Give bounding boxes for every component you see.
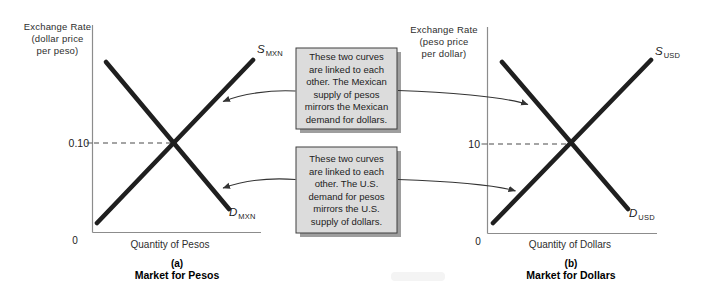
pesos-caption-title: Market for Pesos xyxy=(112,270,242,281)
pesos-graph xyxy=(87,25,262,233)
dollars-x-axis-label: Quantity of Dollars xyxy=(505,239,635,250)
pesos-supply-curve xyxy=(97,60,253,223)
top-note-line2: are linked to each xyxy=(297,64,396,77)
dollars-supply-subscript: USD xyxy=(664,51,680,60)
top-note-line3: other. The Mexican xyxy=(297,76,396,89)
dollars-y-axis-title-line2: (peso price xyxy=(400,36,488,48)
pesos-y-axis-title: Exchange Rate (dollar price per peso) xyxy=(13,21,102,57)
dollars-demand-curve-label: DUSD xyxy=(629,207,655,222)
dollars-y-axis-title: Exchange Rate (peso price per dollar) xyxy=(400,24,488,60)
dollars-equilibrium-tick-label: 10 xyxy=(455,138,480,150)
pesos-supply-subscript: MXN xyxy=(266,49,283,58)
top-note-line5: mirrors the Mexican xyxy=(297,101,396,114)
dollars-caption: (b) Market for Dollars xyxy=(506,258,636,281)
arrow-bottom-to-supply-usd xyxy=(398,180,516,192)
bottom-note-line3: other. The U.S. xyxy=(297,178,396,191)
top-note-line1: These two curves xyxy=(297,51,396,64)
dollars-caption-title: Market for Dollars xyxy=(506,270,636,281)
dollars-demand-letter: D xyxy=(629,207,637,219)
dollars-caption-index: (b) xyxy=(506,258,636,269)
pesos-demand-curve xyxy=(106,62,229,209)
top-note-line6: demand for dollars. xyxy=(297,114,396,127)
pesos-x-axis-label: Quantity of Pesos xyxy=(105,239,235,250)
bottom-note-line5: mirrors the U.S. xyxy=(297,203,396,216)
dollars-y-axis-title-line1: Exchange Rate xyxy=(400,24,488,36)
bottom-note-line4: demand for pesos xyxy=(297,191,396,204)
arrow-top-to-supply-mxn xyxy=(223,91,296,102)
pesos-demand-subscript: MXN xyxy=(238,212,255,221)
dollars-graph xyxy=(482,27,658,234)
pesos-demand-curve-label: DMXN xyxy=(229,206,256,221)
dollars-supply-letter: S xyxy=(655,45,663,57)
pesos-y-axis-title-line2: (dollar price xyxy=(13,33,102,45)
pesos-demand-letter: D xyxy=(229,206,237,218)
arrow-top-to-demand-usd xyxy=(398,91,528,105)
bottom-note-line2: are linked to each xyxy=(297,166,396,179)
dollars-origin-label: 0 xyxy=(472,236,484,247)
dollars-y-axis-title-line3: per dollar) xyxy=(400,48,488,60)
pesos-caption-index: (a) xyxy=(112,258,242,269)
pesos-supply-letter: S xyxy=(257,43,265,55)
dollars-supply-curve xyxy=(493,60,651,223)
pesos-caption: (a) Market for Pesos xyxy=(112,258,242,281)
pesos-supply-curve-label: SMXN xyxy=(257,43,283,58)
pesos-y-axis-title-line3: per peso) xyxy=(13,45,102,57)
dollars-demand-subscript: USD xyxy=(638,213,654,222)
scan-artifact xyxy=(391,272,445,281)
bottom-note-line1: These two curves xyxy=(297,153,396,166)
arrow-bottom-to-demand-mxn xyxy=(223,179,296,188)
top-note-line4: supply of pesos xyxy=(297,89,396,102)
pesos-origin-label: 0 xyxy=(69,235,81,246)
dollars-supply-curve-label: SUSD xyxy=(655,45,680,60)
top-note-text: These two curves are linked to each othe… xyxy=(297,51,396,126)
dollars-demand-curve xyxy=(502,62,628,209)
pesos-equilibrium-tick-label: 0.10 xyxy=(53,137,89,149)
bottom-note-line6: supply of dollars. xyxy=(297,216,396,229)
currency-markets-figure: Exchange Rate (dollar price per peso) 0.… xyxy=(0,0,704,289)
pesos-y-axis-title-line1: Exchange Rate xyxy=(13,21,102,33)
bottom-note-text: These two curves are linked to each othe… xyxy=(297,153,396,228)
